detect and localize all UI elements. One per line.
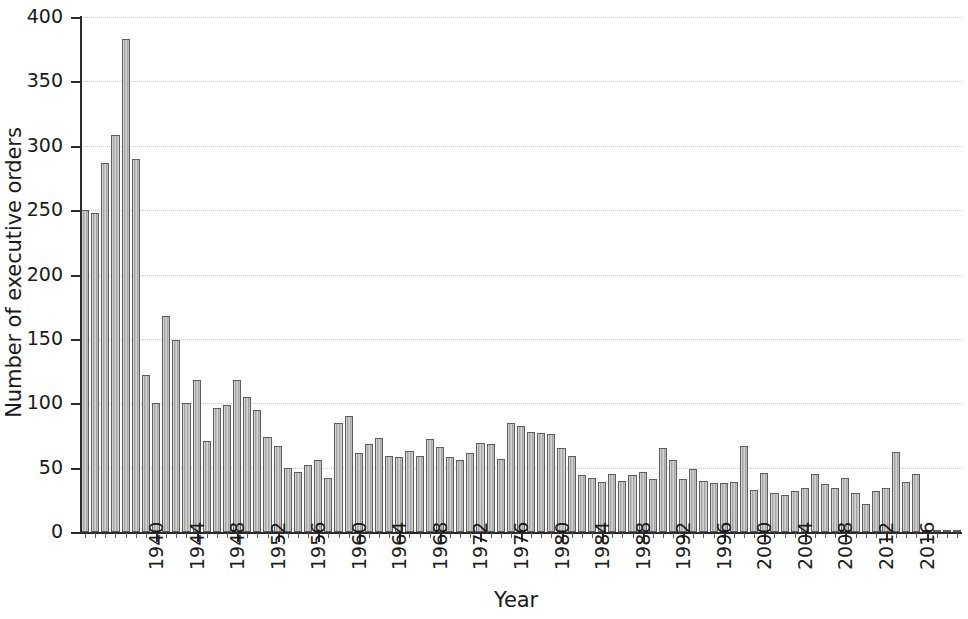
x-minor-tick <box>420 533 421 538</box>
bar <box>355 453 363 532</box>
bar <box>243 397 251 532</box>
x-minor-tick <box>501 533 502 538</box>
bar <box>476 443 484 532</box>
x-minor-tick <box>906 533 907 538</box>
bar <box>365 444 373 532</box>
bar <box>902 482 910 532</box>
bar <box>375 438 383 532</box>
gridline-400 <box>80 17 962 18</box>
x-axis-title: Year <box>86 588 946 612</box>
y-tick-label: 50 <box>3 458 63 477</box>
y-tick-label: 150 <box>3 329 63 348</box>
bar <box>213 408 221 532</box>
plot-area <box>80 17 962 532</box>
bar <box>193 380 201 532</box>
bar <box>517 426 525 532</box>
bar <box>182 403 190 532</box>
gridline-150 <box>80 339 962 340</box>
x-minor-tick <box>176 533 177 538</box>
bar <box>294 472 302 533</box>
bar <box>334 423 342 532</box>
bar <box>426 439 434 532</box>
bar <box>152 403 160 532</box>
bar <box>781 495 789 532</box>
x-minor-tick <box>582 533 583 538</box>
bar <box>142 375 150 532</box>
x-minor-tick <box>339 533 340 538</box>
bar <box>892 452 900 532</box>
x-tick-label: 2016 <box>915 546 968 570</box>
bar <box>659 448 667 532</box>
x-minor-tick <box>703 533 704 538</box>
bar <box>466 453 474 532</box>
bar <box>132 159 140 532</box>
y-tick-mark <box>71 468 80 470</box>
bar <box>405 451 413 532</box>
gridline-100 <box>80 403 962 404</box>
gridline-300 <box>80 146 962 147</box>
bar <box>263 437 271 532</box>
bar <box>547 434 555 532</box>
x-minor-tick <box>298 533 299 538</box>
y-tick-mark <box>71 275 80 277</box>
y-tick-label: 100 <box>3 393 63 412</box>
y-tick-label: 300 <box>3 136 63 155</box>
y-tick-label: 250 <box>3 200 63 219</box>
bar <box>537 433 545 532</box>
bar <box>416 456 424 532</box>
plot-inner <box>80 17 962 532</box>
gridline-200 <box>80 275 962 276</box>
bar <box>172 340 180 532</box>
x-minor-tick <box>217 533 218 538</box>
x-minor-tick <box>105 533 106 538</box>
bar <box>274 446 282 532</box>
bar <box>395 457 403 532</box>
bar <box>233 380 241 532</box>
bar <box>436 447 444 532</box>
y-tick-label: 0 <box>3 522 63 541</box>
y-tick-mark <box>71 403 80 405</box>
x-minor-tick <box>115 533 116 538</box>
y-tick-mark <box>71 17 80 19</box>
x-minor-tick <box>622 533 623 538</box>
bar <box>487 444 495 532</box>
bar <box>345 416 353 532</box>
x-minor-tick <box>866 533 867 538</box>
bar <box>578 475 586 532</box>
x-minor-tick <box>85 533 86 538</box>
bar <box>81 210 89 532</box>
x-minor-tick <box>785 533 786 538</box>
x-minor-tick <box>825 533 826 538</box>
bar <box>101 163 109 533</box>
executive-orders-bar-chart: Number of executive orders 0501001502002… <box>0 0 968 619</box>
x-minor-tick <box>541 533 542 538</box>
bar <box>862 504 870 532</box>
bar <box>111 135 119 532</box>
gridline-350 <box>80 81 962 82</box>
x-minor-tick <box>126 533 127 538</box>
y-tick-label: 350 <box>3 71 63 90</box>
y-tick-label: 200 <box>3 265 63 284</box>
bar <box>821 484 829 532</box>
gridline-250 <box>80 210 962 211</box>
bar <box>91 213 99 532</box>
bar <box>446 457 454 532</box>
x-minor-tick <box>663 533 664 538</box>
x-minor-tick <box>257 533 258 538</box>
y-axis-line <box>80 16 82 533</box>
x-minor-tick <box>95 533 96 538</box>
bar <box>568 456 576 532</box>
bar <box>253 410 261 532</box>
x-minor-tick <box>460 533 461 538</box>
y-tick-mark <box>71 339 80 341</box>
bar <box>162 316 170 532</box>
bar <box>203 441 211 532</box>
bar <box>223 405 231 532</box>
x-minor-tick <box>947 533 948 538</box>
bar <box>507 423 515 532</box>
bar <box>740 446 748 532</box>
bar <box>557 448 565 532</box>
y-tick-label: 400 <box>3 7 63 26</box>
x-minor-tick <box>957 533 958 538</box>
bar <box>618 481 626 533</box>
